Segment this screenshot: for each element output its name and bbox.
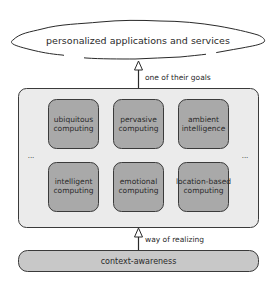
- context-awareness-label: context-awareness: [101, 257, 177, 266]
- box-label-line1: ubiquitous: [54, 115, 93, 124]
- box-label-line1: intelligent: [55, 177, 93, 186]
- box-intelligent-computing: intelligent computing: [49, 163, 99, 212]
- box-ubiquitous-computing: ubiquitous computing: [49, 100, 99, 149]
- box-location-based-computing: location-based computing: [176, 163, 231, 212]
- box-label-line2: intelligence: [182, 124, 226, 133]
- box-label-line2: computing: [183, 186, 223, 195]
- top-arrow-label: one of their goals: [145, 73, 211, 82]
- box-label-line2: computing: [53, 186, 93, 195]
- box-label-line1: emotional: [120, 177, 158, 186]
- bottom-arrow-head-icon: [135, 228, 143, 237]
- top-arrow-head-icon: [135, 61, 143, 70]
- bottom-arrow-label: way of realizing: [145, 235, 204, 244]
- box-label-line2: computing: [53, 124, 93, 133]
- box-ambient-intelligence: ambient intelligence: [179, 100, 229, 149]
- box-emotional-computing: emotional computing: [114, 163, 164, 212]
- box-label-line1: ambient: [188, 115, 219, 124]
- cloud-label: personalized applications and services: [46, 35, 230, 46]
- cloud-gap: [64, 54, 84, 60]
- ellipsis-left: ...: [28, 152, 35, 160]
- box-label-line2: computing: [118, 124, 158, 133]
- ellipsis-right: ...: [242, 152, 249, 160]
- box-label-line1: location-based: [176, 177, 231, 186]
- box-label-line2: computing: [118, 186, 158, 195]
- diagram-canvas: personalized applications and services o…: [0, 0, 277, 288]
- cloud-gap: [206, 51, 216, 57]
- box-pervasive-computing: pervasive computing: [114, 100, 164, 149]
- box-label-line1: pervasive: [120, 115, 157, 124]
